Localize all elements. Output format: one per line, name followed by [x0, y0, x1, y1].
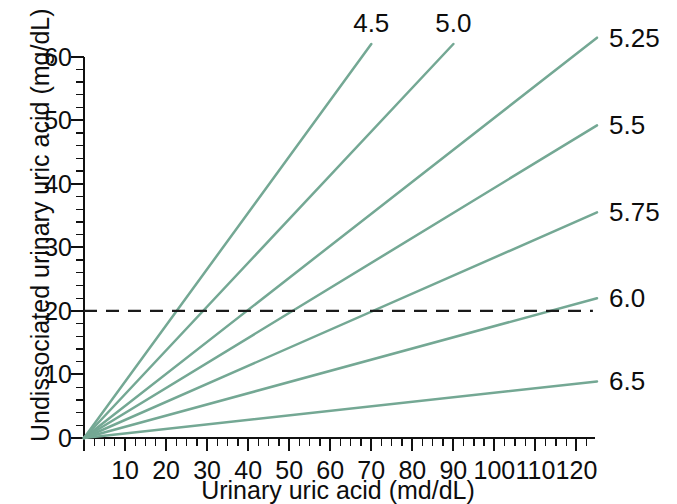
- series-label-5-75: 5.75: [609, 199, 660, 225]
- series-label-6-0: 6.0: [609, 285, 645, 311]
- y-tick-label: 30: [26, 235, 72, 260]
- x-tick-label: 60: [316, 458, 344, 483]
- x-tick-label: 20: [152, 458, 180, 483]
- series-line-5-0: [84, 44, 453, 438]
- x-tick-label: 70: [357, 458, 385, 483]
- x-tick-label: 40: [234, 458, 262, 483]
- series-line-6-0: [84, 298, 597, 438]
- x-tick-label: 10: [111, 458, 139, 483]
- y-tick-label: 60: [26, 44, 72, 69]
- x-tick-label: 100: [474, 458, 516, 483]
- y-tick-label: 50: [26, 108, 72, 133]
- series-line-5-75: [84, 212, 597, 438]
- series-label-5-25: 5.25: [609, 25, 660, 51]
- x-tick-label: 110: [516, 458, 556, 483]
- series-label-5-5: 5.5: [609, 112, 645, 138]
- x-tick-label: 90: [439, 458, 467, 483]
- series-label-4-5: 4.5: [353, 10, 389, 36]
- series-label-6-5: 6.5: [609, 368, 645, 394]
- x-tick-label: 50: [275, 458, 303, 483]
- y-tick-label: 0: [26, 426, 72, 451]
- series-label-5-0: 5.0: [435, 10, 471, 36]
- y-tick-label: 10: [26, 362, 72, 387]
- x-tick-label: 120: [556, 458, 598, 483]
- series-line-4-5: [84, 44, 371, 438]
- x-tick-label: 80: [398, 458, 426, 483]
- series-line-5-25: [84, 38, 597, 438]
- y-tick-label: 20: [26, 298, 72, 323]
- x-tick-label: 30: [193, 458, 221, 483]
- y-tick-label: 40: [26, 171, 72, 196]
